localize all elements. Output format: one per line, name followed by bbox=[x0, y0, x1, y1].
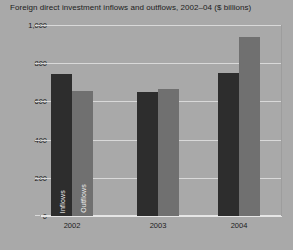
y-tick-mark bbox=[35, 178, 40, 179]
bar-series-label: Inflows bbox=[58, 190, 65, 213]
y-tick-mark bbox=[35, 63, 40, 64]
bar-series-label: Outflows bbox=[79, 184, 86, 213]
bar-2002-inflows[interactable]: Inflows bbox=[51, 74, 72, 216]
x-axis-tick-label-2004: 2004 bbox=[231, 221, 248, 230]
y-tick-mark bbox=[35, 101, 40, 102]
chart-title: Foreign direct investment inflows and ou… bbox=[10, 3, 251, 12]
bar-label-wrap: Outflows bbox=[72, 167, 93, 213]
x-axis-tick-label-2002: 2002 bbox=[64, 221, 81, 230]
bar-2002-outflows[interactable]: Outflows bbox=[72, 91, 93, 216]
bar-label-wrap: Inflows bbox=[51, 167, 72, 213]
bar-2003-inflows[interactable] bbox=[137, 92, 158, 216]
bar-2004-inflows[interactable] bbox=[218, 73, 239, 216]
plot-right-border bbox=[281, 25, 282, 216]
x-axis-tick-label-2003: 2003 bbox=[150, 221, 167, 230]
y-tick-mark bbox=[35, 215, 40, 216]
plot-area: Inflows Outflows bbox=[41, 25, 282, 216]
chart-figure: Foreign direct investment inflows and ou… bbox=[0, 0, 293, 250]
bar-2003-outflows[interactable] bbox=[158, 89, 179, 216]
bar-2004-outflows[interactable] bbox=[239, 37, 260, 217]
gridline-1000 bbox=[41, 25, 282, 26]
y-tick-mark bbox=[35, 25, 40, 26]
y-tick-mark bbox=[35, 140, 40, 141]
